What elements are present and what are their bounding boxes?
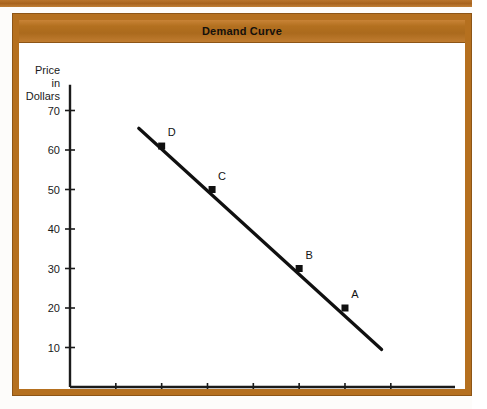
y-tick-label-30: 30	[48, 263, 60, 275]
plot-area: 1020304050607010203040506070PriceinDolla…	[19, 43, 465, 389]
chart-figure-frame: Demand Curve 102030405060701020304050607…	[13, 14, 471, 395]
data-point-label-D: D	[168, 126, 176, 138]
y-axis-title-line-1: Price	[35, 64, 60, 76]
data-point-C[interactable]	[209, 186, 216, 193]
y-axis-title-line-3: Dollars	[26, 90, 61, 102]
data-point-A[interactable]	[341, 305, 348, 312]
chart-title: Demand Curve	[202, 25, 282, 37]
data-point-B[interactable]	[296, 265, 303, 272]
page-right-margin	[472, 0, 487, 409]
y-tick-label-60: 60	[48, 144, 60, 156]
y-tick-label-50: 50	[48, 184, 60, 196]
demand-curve-chart: 1020304050607010203040506070PriceinDolla…	[19, 43, 465, 389]
scanned-page: Demand Curve 102030405060701020304050607…	[0, 0, 487, 409]
y-tick-label-20: 20	[48, 302, 60, 314]
demand-curve-line	[139, 128, 382, 349]
chart-title-bar: Demand Curve	[19, 20, 465, 43]
y-tick-label-40: 40	[48, 223, 60, 235]
y-tick-label-10: 10	[48, 342, 60, 354]
y-tick-label-70: 70	[48, 105, 60, 117]
data-point-D[interactable]	[158, 143, 165, 150]
page-top-edge-strip	[0, 0, 487, 7]
data-point-label-C: C	[218, 170, 226, 182]
y-axis-title-line-2: in	[51, 77, 60, 89]
data-point-label-A: A	[351, 288, 359, 300]
data-point-label-B: B	[305, 249, 312, 261]
